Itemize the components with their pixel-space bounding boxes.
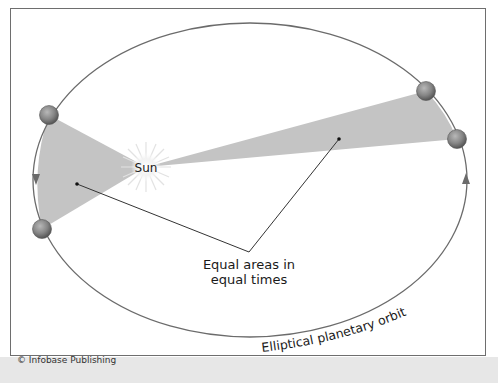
swept-area-right xyxy=(146,91,457,167)
area-marker-dot xyxy=(337,137,341,141)
area-marker-dot xyxy=(75,182,79,186)
planet-icon xyxy=(33,220,52,239)
equal-areas-label: Equal areas in equal times xyxy=(189,257,309,287)
planet-icon xyxy=(40,106,59,125)
planet-icon xyxy=(417,82,436,101)
sun-label: Sun xyxy=(135,161,158,175)
orbit-label: Elliptical planetary orbit xyxy=(261,304,408,355)
kepler-diagram: Sun Elliptical planetary orbit xyxy=(0,0,498,383)
orbit-label-text: Elliptical planetary orbit xyxy=(261,304,408,355)
publisher-credit: © Infobase Publishing xyxy=(17,355,116,365)
swept-area-left xyxy=(37,115,146,229)
equal-areas-line1: Equal areas in xyxy=(189,257,309,272)
orbit-arrow-up-icon xyxy=(462,173,470,184)
equal-areas-line2: equal times xyxy=(189,272,309,287)
planet-icon xyxy=(448,130,467,149)
